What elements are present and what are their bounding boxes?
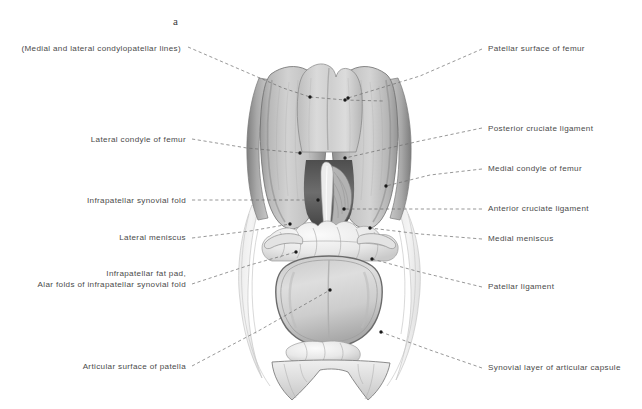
label-lateral-condyle-of-femur: Lateral condyle of femur — [0, 134, 186, 146]
label-patellar-surface-of-femur: Patellar surface of femur — [488, 43, 642, 55]
label-articular-surface-of-patella: Articular surface of patella — [0, 361, 186, 373]
marker-dot-condylopatellar-lines-1 — [343, 98, 346, 101]
label-patellar-ligament: Patellar ligament — [488, 281, 642, 293]
patella-vertical-ridge — [328, 260, 329, 341]
label-medial-meniscus: Medial meniscus — [488, 233, 642, 245]
label-line: Alar folds of infrapatellar synovial fol… — [0, 279, 186, 291]
label-line: (Medial and lateral condylopatellar line… — [0, 43, 181, 55]
marker-dot-lateral-meniscus-0 — [288, 222, 291, 225]
label-line: Patellar ligament — [488, 281, 642, 293]
label-line: Medial meniscus — [488, 233, 642, 245]
label-line: Lateral meniscus — [0, 232, 186, 244]
label-line: Articular surface of patella — [0, 361, 186, 373]
marker-dot-articular-surface-of-patella-0 — [328, 288, 331, 291]
label-line: Lateral condyle of femur — [0, 134, 186, 146]
marker-dot-patellar-ligament-0 — [370, 257, 373, 260]
label-line: Anterior cruciate ligament — [488, 203, 642, 215]
marker-dot-medial-condyle-of-femur-0 — [384, 184, 387, 187]
label-infrapatellar-synovial-fold: Infrapatellar synovial fold — [0, 195, 186, 207]
label-anterior-cruciate-ligament: Anterior cruciate ligament — [488, 203, 642, 215]
figure-body — [239, 64, 421, 400]
marker-dot-posterior-cruciate-ligament-0 — [343, 156, 346, 159]
leader-line-patellar-ligament — [372, 259, 482, 287]
label-infrapatellar-fat-pad: Infrapatellar fat pad,Alar folds of infr… — [0, 268, 186, 291]
label-posterior-cruciate-ligament: Posterior cruciate ligament — [488, 123, 642, 135]
label-line: Infrapatellar synovial fold — [0, 195, 186, 207]
marker-dot-synovial-layer-of-articular-capsule-0 — [379, 330, 382, 333]
label-lateral-meniscus: Lateral meniscus — [0, 232, 186, 244]
marker-dot-infrapatellar-synovial-fold-0 — [316, 198, 319, 201]
label-line: Patellar surface of femur — [488, 43, 642, 55]
marker-dot-medial-meniscus-0 — [368, 226, 371, 229]
label-condylopatellar-lines: (Medial and lateral condylopatellar line… — [0, 43, 181, 55]
marker-dot-infrapatellar-fat-pad-0 — [294, 250, 297, 253]
label-line: Synovial layer of articular capsule — [488, 362, 642, 374]
marker-dot-condylopatellar-lines-0 — [308, 95, 311, 98]
label-medial-condyle-of-femur: Medial condyle of femur — [488, 163, 642, 175]
label-line: Posterior cruciate ligament — [488, 123, 642, 135]
label-synovial-layer-of-articular-capsule: Synovial layer of articular capsule — [488, 362, 642, 374]
patellar-ligament — [272, 360, 390, 400]
marker-dot-patellar-surface-of-femur-0 — [346, 96, 349, 99]
marker-dot-anterior-cruciate-ligament-0 — [342, 207, 345, 210]
label-line: Infrapatellar fat pad, — [0, 268, 186, 280]
patellar-surface-of-femur — [297, 64, 362, 152]
marker-dot-lateral-condyle-of-femur-0 — [298, 151, 301, 154]
anatomical-plate: a (Medial and lateral condylopatellar li… — [0, 0, 642, 409]
label-line: Medial condyle of femur — [488, 163, 642, 175]
leader-line-synovial-layer-of-articular-capsule — [381, 332, 482, 368]
panel-letter-a: a — [173, 15, 178, 27]
